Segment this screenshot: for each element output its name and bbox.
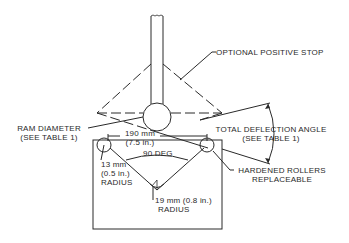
span-label: 190 mm (7.5 in.) (118, 129, 162, 147)
ram-shaft (151, 15, 163, 104)
positive-stop-dashed (97, 64, 222, 130)
ram-circle (143, 103, 171, 131)
positive-stop-label: OPTIONAL POSITIVE STOP (216, 48, 324, 57)
stop-leader (180, 52, 212, 80)
bend-test-diagram: OPTIONAL POSITIVE STOP RAM DIAMETER (SEE… (0, 0, 349, 243)
angle-label: 90 DEG (143, 149, 173, 158)
left-roller-leader (101, 145, 104, 160)
roller-radius-label: 13 mm (0.5 in.) RADIUS (101, 160, 132, 187)
ram-diameter-label: RAM DIAMETER (SEE TABLE 1) (8, 124, 90, 142)
rollers-label: HARDENED ROLLERS REPLACEABLE (232, 166, 332, 184)
vee-radius-label: 19 mm (0.8 in.) RADIUS (155, 196, 212, 214)
deflection-angle-label: TOTAL DEFLECTION ANGLE (SEE TABLE 1) (208, 125, 334, 143)
